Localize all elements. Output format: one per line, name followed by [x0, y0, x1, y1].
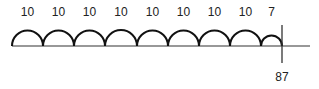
jump-label: 10: [208, 5, 221, 19]
jump-arc: [12, 31, 43, 47]
jump-arc: [199, 31, 230, 47]
jump-arc: [105, 30, 137, 46]
jump-label: 10: [52, 5, 65, 19]
jump-arc: [261, 36, 282, 47]
jump-arcs: [12, 30, 282, 46]
end-value-label: 87: [275, 70, 288, 84]
jump-arc: [168, 31, 199, 47]
jump-arc: [137, 31, 168, 46]
jump-label: 10: [146, 5, 159, 19]
jump-arc: [230, 31, 261, 47]
number-line-diagram: 10101010101010107 87: [0, 0, 319, 89]
jump-label: 10: [83, 5, 96, 19]
jump-label: 10: [177, 5, 190, 19]
jump-arc: [43, 31, 74, 46]
jump-label: 10: [114, 5, 127, 19]
jump-arc: [74, 31, 105, 47]
jump-label: 10: [239, 5, 252, 19]
jump-label: 10: [21, 5, 34, 19]
jump-label: 7: [268, 5, 275, 19]
